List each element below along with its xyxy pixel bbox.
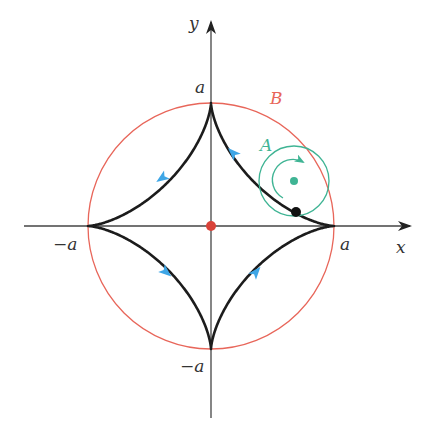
tick-label-x-pos: a: [340, 236, 350, 253]
origin-dot: [206, 221, 216, 231]
astroid-figure: y x a −a −a a B A: [0, 0, 436, 434]
x-axis-label: x: [396, 239, 406, 256]
y-axis-label: y: [189, 15, 199, 32]
circle-a-label: A: [260, 137, 272, 154]
tick-label-y-pos: a: [195, 79, 205, 96]
tracing-point: [291, 207, 301, 217]
rotation-arrow-icon: [272, 159, 303, 198]
tick-label-x-neg: −a: [53, 236, 77, 253]
circle-b-label: B: [270, 90, 283, 107]
circle-a-center-dot: [290, 177, 298, 185]
tick-label-y-neg: −a: [180, 358, 204, 375]
direction-arrows: [153, 145, 264, 281]
